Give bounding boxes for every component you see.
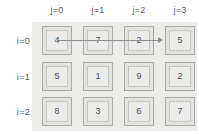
cell-1-0: 5 xyxy=(42,62,72,91)
array-diagram: j=0 j=1 j=2 j=3 i=0 i=1 i=2 4 7 2 5 5 1 xyxy=(0,0,199,134)
cell-value: 6 xyxy=(136,107,141,116)
row-traversal-arrow-head-icon xyxy=(158,37,163,43)
column-header-j1: j=1 xyxy=(78,5,118,15)
cell-1-2: 9 xyxy=(124,62,154,91)
cell-2-0: 8 xyxy=(42,97,72,126)
cell-inner: 2 xyxy=(169,66,191,87)
column-header-j3: j=3 xyxy=(160,5,199,15)
cell-inner: 1 xyxy=(87,66,109,87)
cell-2-2: 6 xyxy=(124,97,154,126)
cell-1-1: 1 xyxy=(83,62,113,91)
column-header-j0: j=0 xyxy=(37,5,77,15)
cell-value: 2 xyxy=(177,72,182,81)
cell-value: 5 xyxy=(177,36,182,45)
cell-value: 5 xyxy=(54,72,59,81)
row-label-i2: i=2 xyxy=(0,107,30,117)
row-label-i0: i=0 xyxy=(0,36,30,46)
cell-0-3: 5 xyxy=(165,26,195,55)
row-label-i1: i=1 xyxy=(0,72,30,82)
cell-inner: 5 xyxy=(46,66,68,87)
cell-2-3: 7 xyxy=(165,97,195,126)
cell-inner: 9 xyxy=(128,66,150,87)
column-header-j2: j=2 xyxy=(119,5,159,15)
cell-inner: 7 xyxy=(169,101,191,122)
cell-1-3: 2 xyxy=(165,62,195,91)
cell-inner: 5 xyxy=(169,30,191,51)
cell-2-1: 3 xyxy=(83,97,113,126)
cell-value: 7 xyxy=(177,107,182,116)
cell-value: 8 xyxy=(54,107,59,116)
cell-value: 1 xyxy=(95,72,100,81)
cell-value: 9 xyxy=(136,72,141,81)
cell-value: 3 xyxy=(95,107,100,116)
cell-inner: 3 xyxy=(87,101,109,122)
cell-inner: 6 xyxy=(128,101,150,122)
cell-inner: 8 xyxy=(46,101,68,122)
row-traversal-arrow-line xyxy=(57,40,159,41)
